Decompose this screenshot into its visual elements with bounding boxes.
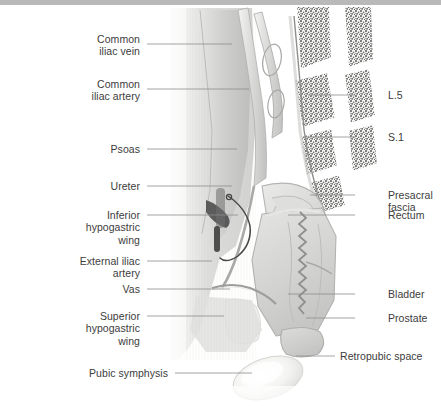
label-l5: L.5 [388, 89, 403, 101]
label-bladder: Bladder [388, 288, 425, 300]
inferior-hypogastric-wing [216, 188, 225, 228]
label-rectum: Rectum [388, 209, 424, 221]
label-s1: S.1 [388, 131, 404, 143]
pelvic-floor-striation [190, 296, 262, 352]
left-fade-mask [0, 5, 170, 411]
label-retropubic-space: Retropubic space [340, 350, 423, 362]
anatomy-figure: Common iliac veinCommon iliac arteryPsoa… [0, 0, 441, 411]
label-inferior-hypogastric-wing: Inferior hypogastric wing [86, 209, 140, 246]
label-ureter: Ureter [111, 180, 140, 192]
prostate [281, 327, 324, 357]
left-soft-fade [160, 5, 186, 411]
label-psoas: Psoas [111, 143, 140, 155]
label-superior-hypogastric-wing: Superior hypogastric wing [86, 310, 140, 347]
label-vas: Vas [123, 283, 140, 295]
nerve-trunk [214, 226, 220, 252]
bottom-fade-mask [0, 386, 441, 411]
label-pubic-symphysis: Pubic symphysis [89, 367, 168, 379]
label-common-iliac-artery: Common iliac artery [92, 78, 140, 103]
vertebral-column [294, 6, 378, 214]
label-common-iliac-vein: Common iliac vein [97, 33, 140, 58]
label-prostate: Prostate [388, 312, 428, 324]
bladder-wall [252, 208, 336, 336]
label-external-iliac-artery: External iliac artery [80, 255, 140, 280]
bladder [252, 208, 336, 336]
